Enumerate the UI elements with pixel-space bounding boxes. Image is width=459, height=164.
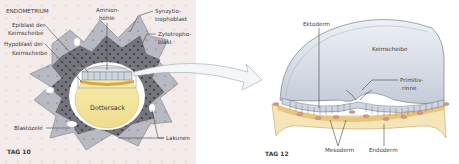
label-amnion-2: höhle bbox=[99, 15, 115, 21]
label-primitivrinne-1: Primitiv- bbox=[400, 77, 423, 83]
label-amnion-1: Amnion- bbox=[96, 7, 119, 13]
label-mesoderm: Mesoderm bbox=[325, 147, 354, 153]
lakune bbox=[74, 38, 80, 46]
label-synzytio-2: trophoblast bbox=[155, 16, 188, 23]
label-hypoblast-1: Hypoblast der bbox=[4, 41, 44, 48]
label-synzytio-1: Synzytio- bbox=[155, 8, 181, 15]
left-panel-tag10: ENDOMETRIUM Epiblast der Keimscheibe Hyp… bbox=[0, 0, 196, 164]
label-primitivrinne-2: rinne bbox=[402, 85, 417, 91]
label-keimscheibe: Keimscheibe bbox=[372, 46, 408, 52]
label-ektoderm: Ektoderm bbox=[303, 21, 330, 27]
lakune bbox=[67, 121, 77, 127]
lakune bbox=[113, 137, 117, 140]
embryo-development-diagram: ENDOMETRIUM Epiblast der Keimscheibe Hyp… bbox=[0, 0, 459, 164]
right-panel-tag12: Ektoderm Keimscheibe Primitiv- rinne Mes… bbox=[265, 19, 449, 157]
label-zytotropho-1: Zytotropho- bbox=[158, 31, 191, 38]
label-endometrium: ENDOMETRIUM bbox=[6, 8, 49, 14]
dottersack-shape bbox=[75, 72, 139, 128]
label-blastozele: Blastozele bbox=[14, 125, 43, 131]
label-epiblast-2: Keimscheibe bbox=[8, 30, 44, 36]
keimscheibe-disc bbox=[280, 19, 444, 103]
label-tag10: TAG 10 bbox=[7, 148, 31, 155]
label-endoderm: Endoderm bbox=[369, 147, 398, 153]
label-tag12: TAG 12 bbox=[265, 150, 289, 157]
label-zytotropho-2: blast bbox=[158, 39, 172, 45]
label-epiblast-1: Epiblast der bbox=[12, 22, 46, 29]
epiblast-cells bbox=[82, 72, 132, 80]
lakune bbox=[46, 87, 54, 93]
label-dottersack: Dottersack bbox=[90, 104, 125, 112]
label-hypoblast-2: Keimscheibe bbox=[12, 50, 48, 56]
label-lakunen: Lakunen bbox=[166, 135, 190, 141]
